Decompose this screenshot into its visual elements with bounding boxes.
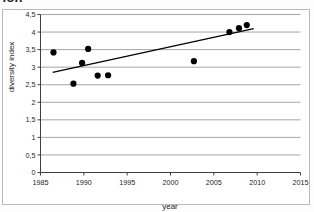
data-point: [191, 58, 197, 64]
chart-figure: ion diversity index year 00,511,522,533,…: [0, 0, 314, 212]
x-axis-tick-label: 1990: [76, 178, 92, 187]
data-point: [70, 81, 76, 87]
x-axis-tick-label: 2010: [249, 178, 265, 187]
x-axis-tick-label: 2015: [293, 178, 309, 187]
data-point: [244, 22, 250, 28]
data-point: [226, 29, 232, 35]
data-point: [50, 49, 56, 55]
data-point: [85, 46, 91, 52]
y-axis-tick-label: 1,5: [26, 115, 36, 124]
y-axis-tick-label: 0: [32, 168, 36, 177]
y-axis-tick-label: 4,5: [26, 10, 36, 19]
x-axis-tick-label: 1985: [33, 178, 49, 187]
scatter-plot: 00,511,522,533,544,519851990199520002005…: [0, 0, 314, 212]
data-point: [95, 72, 101, 78]
y-axis-tick-label: 4: [32, 28, 36, 37]
x-axis-tick-label: 1995: [119, 178, 135, 187]
x-axis-tick-label: 2005: [206, 178, 222, 187]
y-axis-tick-label: 2,5: [26, 80, 36, 89]
y-axis-tick-label: 2: [32, 98, 36, 107]
y-axis-tick-label: 3,5: [26, 45, 36, 54]
y-axis-tick-label: 3: [32, 63, 36, 72]
data-point: [105, 72, 111, 78]
data-point: [236, 25, 242, 31]
y-axis-tick-label: 1: [32, 133, 36, 142]
data-point: [79, 60, 85, 66]
x-axis-tick-label: 2000: [163, 178, 179, 187]
y-axis-tick-label: 0,5: [26, 151, 36, 160]
